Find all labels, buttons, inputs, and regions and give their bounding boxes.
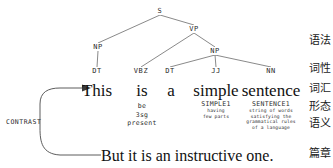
tree-edge [215, 55, 271, 67]
layer-label: 词性 [309, 63, 331, 75]
sentence-word: simple [193, 82, 238, 100]
gloss-block: SENTENCE1string of wordssatisfying thegr… [246, 100, 296, 130]
contrast-arrow-curve [40, 88, 82, 155]
sentence-word: This [82, 82, 112, 100]
gloss-block: be3sgpresent [127, 102, 157, 128]
gloss-definition-line: few parts [201, 114, 231, 120]
gloss-block: SIMPLE1havingfew parts [201, 100, 231, 119]
layer-label: 语法 [309, 35, 331, 47]
layer-label: 词汇 [309, 83, 331, 95]
layer-label: 篇章 [309, 148, 331, 160]
gloss-definition-line: present [127, 119, 157, 128]
bottom-sentence: But it is an instructive one. [101, 147, 273, 165]
tree-node-np: NP [209, 47, 221, 55]
tree-node-vp: VP [188, 25, 200, 33]
tree-node-np: NP [92, 43, 104, 51]
gloss-sense-id: SENTENCE1 [246, 100, 296, 108]
tree-edge [160, 15, 194, 25]
sentence-word: a [167, 82, 175, 100]
gloss-definition-line: grammatical rules [246, 119, 296, 125]
tree-node-dt: DT [91, 67, 103, 75]
gloss-definition-line: 3sg [127, 111, 157, 120]
tree-edge [97, 51, 98, 67]
contrast-relation-label: CONTRAST [6, 118, 41, 126]
sentence-word: sentence [242, 82, 301, 100]
tree-edge [194, 33, 215, 47]
tree-node-s: S [157, 7, 164, 15]
layer-label: 语义 [309, 118, 331, 130]
tree-node-dt: DT [164, 67, 176, 75]
sentence-word: is [136, 82, 147, 100]
gloss-sense-id: SIMPLE1 [201, 100, 231, 108]
linguistic-annotation-figure: SNPVPNPDTVBZDTJJNN Thisisasimplesentence… [0, 0, 333, 168]
tree-node-vbz: VBZ [133, 67, 149, 75]
tree-edge [141, 33, 194, 67]
tree-edge [98, 15, 160, 43]
tree-node-nn: NN [265, 67, 277, 75]
layer-label: 形态 [309, 101, 331, 113]
gloss-definition-line: be [127, 102, 157, 111]
tree-edge [215, 55, 216, 67]
gloss-definition-line: string of words [246, 108, 296, 114]
tree-node-jj: JJ [210, 67, 222, 75]
gloss-definition-line: of a language [246, 125, 296, 131]
tree-edge [170, 55, 215, 67]
